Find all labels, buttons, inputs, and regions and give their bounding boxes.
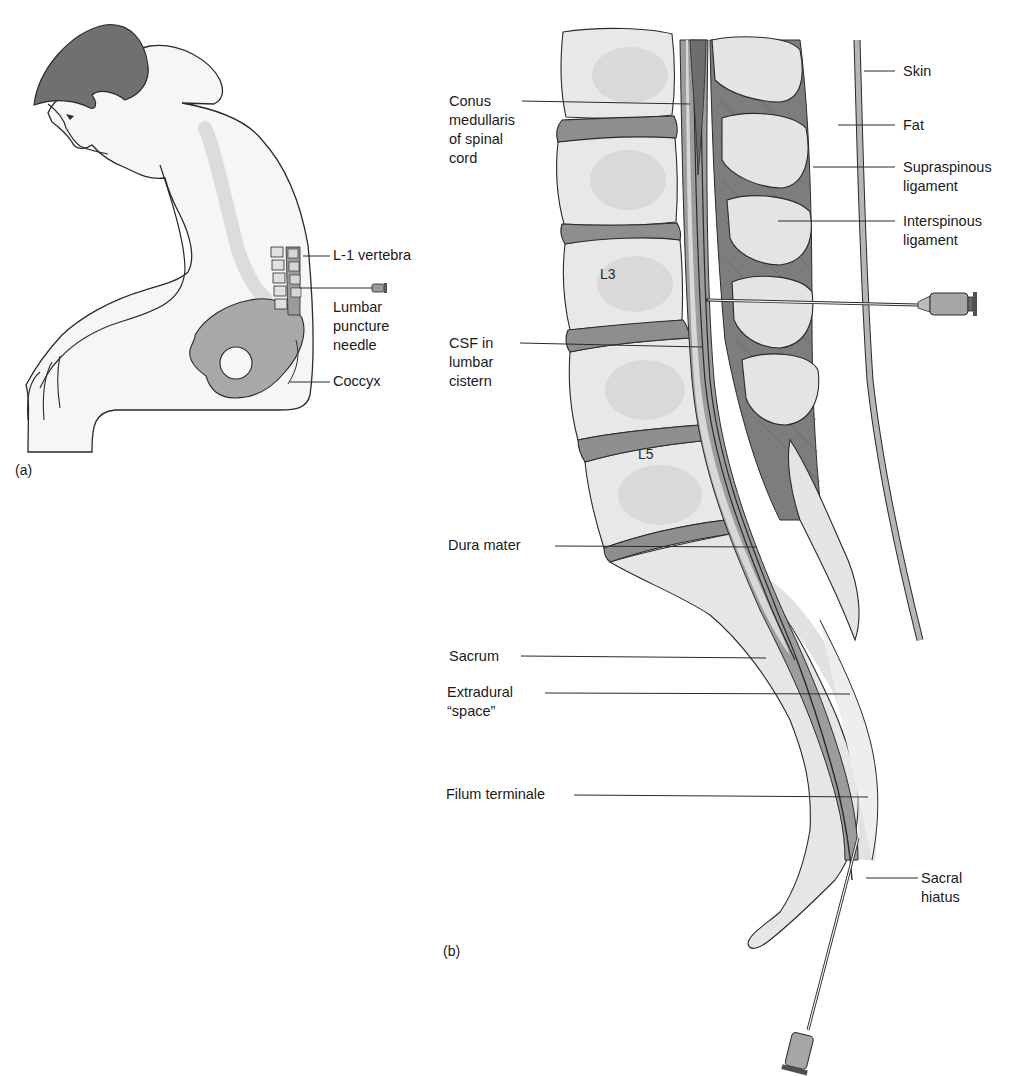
label-text: Conus xyxy=(449,92,515,111)
label-csf-lumbar-cistern: CSF in lumbar cistern xyxy=(449,334,493,391)
label-text: puncture xyxy=(333,317,389,336)
label-text: medullaris xyxy=(449,111,515,130)
label-text: “space” xyxy=(447,702,513,721)
label-text: lumbar xyxy=(449,353,493,372)
label-text: Interspinous xyxy=(903,212,982,231)
label-text: Fat xyxy=(903,117,924,133)
label-coccyx: Coccyx xyxy=(333,372,381,391)
label-fat: Fat xyxy=(903,116,924,135)
label-supraspinous-ligament: Supraspinous ligament xyxy=(903,158,992,196)
label-dura-mater: Dura mater xyxy=(448,536,521,555)
label-text: Extradural xyxy=(447,683,513,702)
label-text: cistern xyxy=(449,372,493,391)
label-interspinous-ligament: Interspinous ligament xyxy=(903,212,982,250)
label-conus-medullaris: Conus medullaris of spinal cord xyxy=(449,92,515,168)
label-text: of spinal xyxy=(449,130,515,149)
label-text: Skin xyxy=(903,63,931,79)
vertebra-label-l3: L3 xyxy=(600,266,616,282)
panel-a-tag: (a) xyxy=(15,462,32,478)
label-text: Filum terminale xyxy=(446,786,545,802)
patient-hair xyxy=(34,25,148,109)
label-text: needle xyxy=(333,336,389,355)
label-text: Supraspinous xyxy=(903,158,992,177)
label-l1-vertebra: L-1 vertebra xyxy=(333,246,411,265)
label-text: Coccyx xyxy=(333,373,381,389)
vertebra-label-l5: L5 xyxy=(638,446,654,462)
label-skin: Skin xyxy=(903,62,931,81)
label-text: Lumbar xyxy=(333,298,389,317)
label-text: hiatus xyxy=(921,888,962,907)
patient-body xyxy=(26,45,313,452)
label-filum-terminale: Filum terminale xyxy=(446,785,545,804)
label-text: Sacrum xyxy=(449,648,499,664)
label-text: L-1 vertebra xyxy=(333,247,411,263)
label-text: ligament xyxy=(903,231,982,250)
label-text: CSF in xyxy=(449,334,493,353)
label-lumbar-puncture-needle: Lumbar puncture needle xyxy=(333,298,389,355)
label-extradural-space: Extradural “space” xyxy=(447,683,513,721)
panel-b-tag: (b) xyxy=(443,943,460,959)
label-text: Sacral xyxy=(921,869,962,888)
label-text: ligament xyxy=(903,177,992,196)
label-sacrum: Sacrum xyxy=(449,647,499,666)
label-sacral-hiatus: Sacral hiatus xyxy=(921,869,962,907)
pelvis-foramen xyxy=(220,347,252,379)
label-text: Dura mater xyxy=(448,537,521,553)
label-text: cord xyxy=(449,149,515,168)
